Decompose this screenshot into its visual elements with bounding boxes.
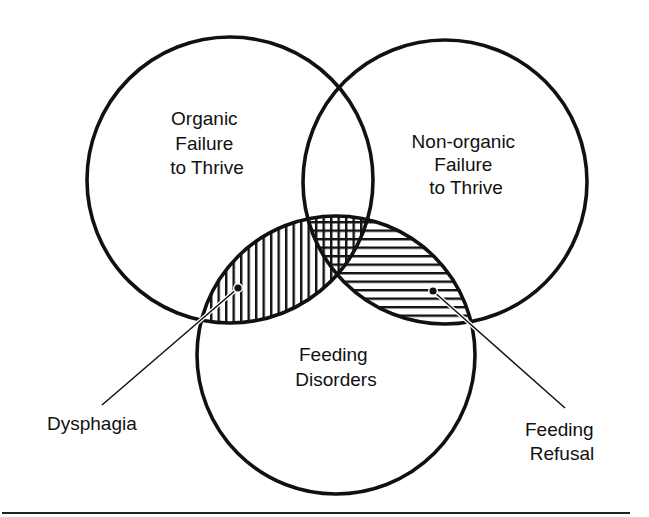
dot-feeding-refusal (429, 287, 436, 294)
label-nonorganic-ftt: Non-organic Failure to Thrive (412, 131, 521, 198)
leader-line-dysphagia (102, 288, 238, 405)
label-dysphagia: Dysphagia (47, 413, 137, 434)
label-organic-ftt: Organic Failure to Thrive (170, 108, 244, 178)
venn-diagram: Organic Failure to Thrive Non-organic Fa… (0, 0, 649, 517)
label-feeding-disorders: Feeding Disorders (295, 344, 376, 390)
leader-line-feeding-refusal (433, 291, 565, 408)
label-feeding-refusal: Feeding Refusal (525, 419, 599, 464)
dot-dysphagia (234, 284, 241, 291)
